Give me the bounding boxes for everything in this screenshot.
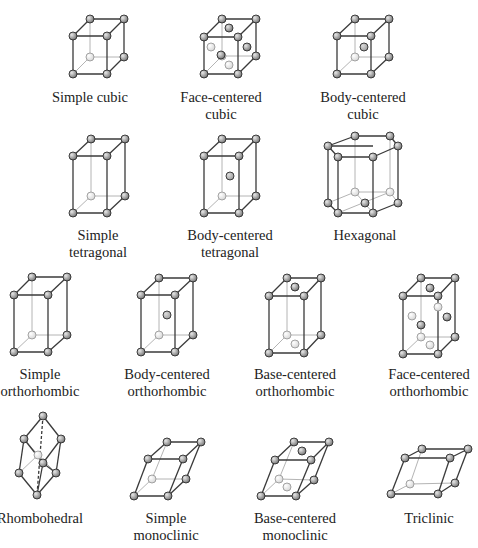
bravais-lattice-diagram	[0, 0, 478, 548]
lattice-simple-monoclinic	[130, 438, 205, 500]
atom-icon	[300, 292, 308, 300]
lattice-label-body-centered-cubic: Body-centeredcubic	[320, 89, 405, 123]
hidden-atom-icon	[351, 53, 359, 61]
atom-icon	[200, 70, 208, 78]
atom-icon	[218, 15, 226, 23]
hidden-edge	[152, 442, 167, 479]
lattice-label-simple-tetragonal: Simpletetragonal	[69, 227, 127, 261]
atom-icon	[426, 284, 434, 292]
edge	[261, 460, 275, 496]
hidden-atom-icon	[426, 341, 434, 349]
atom-icon	[137, 348, 145, 356]
atom-icon	[399, 350, 407, 358]
atom-icon	[317, 331, 325, 339]
atom-icon	[69, 70, 77, 78]
atom-icon	[234, 33, 242, 41]
atom-icon	[271, 456, 279, 464]
atom-icon	[434, 490, 442, 498]
lattice-label-face-centered-orthorhombic: Face-centeredorthorhombic	[388, 366, 469, 400]
atom-icon	[252, 15, 260, 23]
label-line: monoclinic	[133, 527, 198, 544]
atom-icon	[234, 70, 242, 78]
atom-icon	[290, 438, 298, 446]
lattice-base-centered-monoclinic	[257, 438, 333, 500]
atom-icon	[307, 456, 315, 464]
atom-icon	[434, 350, 442, 358]
atom-icon	[39, 412, 47, 420]
atom-icon	[39, 459, 47, 467]
atom-icon	[218, 135, 226, 143]
label-line: Simple	[133, 510, 198, 527]
atom-icon	[361, 199, 369, 207]
lattice-face-centered-orthorhombic	[399, 274, 459, 358]
lattice-label-body-centered-orthorhombic: Body-centeredorthorhombic	[124, 366, 209, 400]
lattice-simple-cubic	[69, 15, 128, 78]
atom-icon	[189, 331, 197, 339]
lattice-label-triclinic: Triclinic	[404, 510, 453, 527]
hidden-atom-icon	[351, 188, 359, 196]
lattice-face-centered-cubic	[200, 15, 260, 78]
atom-icon	[10, 348, 18, 356]
atom-icon	[179, 455, 187, 463]
atom-icon	[292, 492, 300, 500]
atom-icon	[69, 32, 77, 40]
atom-icon	[324, 142, 332, 150]
atom-icon	[298, 447, 306, 455]
atom-icon	[103, 209, 111, 217]
lattice-body-centered-tetragonal	[200, 135, 260, 217]
edge	[24, 416, 43, 439]
atom-icon	[103, 152, 111, 160]
label-line: tetragonal	[69, 244, 127, 261]
atom-icon	[451, 479, 459, 487]
hidden-atom-icon	[406, 480, 414, 488]
atom-icon	[120, 15, 128, 23]
atom-icon	[265, 292, 273, 300]
atom-icon	[163, 311, 171, 319]
hidden-atom-icon	[417, 333, 425, 341]
label-line: cubic	[180, 106, 261, 123]
edge	[168, 459, 183, 496]
atom-icon	[137, 291, 145, 299]
hidden-atom-icon	[283, 331, 291, 339]
atom-icon	[310, 476, 318, 484]
atom-icon	[86, 15, 94, 23]
lattice-body-centered-orthorhombic	[137, 274, 197, 356]
label-line: Simple	[1, 366, 80, 383]
edge	[186, 442, 201, 479]
atom-icon	[155, 274, 163, 282]
atom-icon	[317, 274, 325, 282]
lattice-label-simple-orthorhombic: Simpleorthorhombic	[1, 366, 80, 400]
atom-icon	[121, 135, 129, 143]
atom-icon	[446, 454, 454, 462]
atom-icon	[52, 469, 60, 477]
atom-icon	[386, 132, 394, 140]
atom-icon	[10, 291, 18, 299]
label-line: cubic	[320, 106, 405, 123]
label-line: Face-centered	[180, 89, 261, 106]
atom-icon	[226, 172, 234, 180]
atom-icon	[63, 331, 71, 339]
atom-icon	[257, 492, 265, 500]
lattice-base-centered-orthorhombic	[265, 274, 325, 357]
atom-icon	[300, 349, 308, 357]
lattice-hexagonal	[324, 132, 402, 217]
atom-icon	[360, 43, 368, 51]
atom-icon	[182, 475, 190, 483]
atom-icon	[417, 321, 425, 329]
hidden-atom-icon	[86, 53, 94, 61]
atom-icon	[121, 192, 129, 200]
atom-icon	[44, 348, 52, 356]
atom-icon	[130, 492, 138, 500]
atom-icon	[57, 435, 65, 443]
atom-icon	[367, 70, 375, 78]
atom-icon	[164, 492, 172, 500]
atom-icon	[443, 313, 451, 321]
edge	[314, 442, 329, 480]
atom-icon	[418, 445, 426, 453]
edge	[391, 458, 405, 494]
label-line: Base-centered	[254, 366, 336, 383]
edge	[296, 460, 311, 496]
atom-icon	[333, 70, 341, 78]
label-line: orthorhombic	[1, 383, 80, 400]
atom-icon	[369, 153, 377, 161]
